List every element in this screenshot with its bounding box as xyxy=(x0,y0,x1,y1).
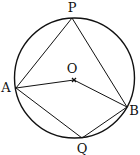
circle-diagram: P A O B Q xyxy=(0,0,140,155)
segment-QB xyxy=(82,107,127,138)
label-B: B xyxy=(129,103,139,118)
label-O: O xyxy=(67,61,78,76)
label-Q: Q xyxy=(77,141,88,155)
segment-AP xyxy=(16,18,72,88)
label-P: P xyxy=(68,0,77,15)
segment-AO xyxy=(16,80,74,88)
circle xyxy=(15,18,135,138)
segment-PB xyxy=(72,18,127,107)
label-A: A xyxy=(0,80,11,95)
